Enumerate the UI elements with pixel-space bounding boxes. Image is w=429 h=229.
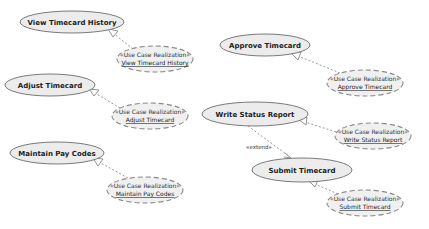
extend-link: «extend»: [246, 126, 291, 158]
realization-link[interactable]: Adjust Timecard: [126, 116, 175, 124]
use-case-label: View Timecard History: [28, 19, 117, 27]
use-case-label: Approve Timecard: [229, 42, 301, 50]
realization-stereotype: «Use Case Realization»: [120, 51, 190, 58]
realization-stereotype: «Use Case Realization»: [115, 108, 185, 115]
realization-view-timecard-history[interactable]: «Use Case Realization» View Timecard His…: [117, 46, 193, 72]
realization-stereotype: «Use Case Realization»: [110, 182, 180, 189]
use-case-label: Write Status Report: [216, 111, 295, 119]
realize-link-view-timecard-history: [113, 33, 133, 49]
realization-link[interactable]: Write Status Report: [344, 136, 403, 144]
use-case-label: Maintain Pay Codes: [18, 150, 95, 158]
realization-link[interactable]: View Timecard History: [121, 59, 189, 67]
realization-adjust-timecard[interactable]: «Use Case Realization» Adjust Timecard: [112, 103, 188, 129]
realization-link[interactable]: Approve Timecard: [338, 83, 393, 91]
realize-link-write-status-report: [305, 122, 336, 132]
extend-label: «extend»: [246, 144, 272, 150]
realization-stereotype: «Use Case Realization»: [338, 128, 408, 135]
realize-link-maintain-pay-codes: [99, 162, 128, 178]
use-case-submit-timecard[interactable]: Submit Timecard: [252, 158, 352, 182]
use-case-label: Adjust Timecard: [18, 82, 82, 90]
realize-link-adjust-timecard: [95, 93, 120, 108]
realization-approve-timecard[interactable]: «Use Case Realization» Approve Timecard: [327, 70, 403, 96]
realization-link[interactable]: Maintain Pay Codes: [116, 190, 175, 198]
realization-link[interactable]: Submit Timecard: [339, 203, 390, 210]
use-case-label: Submit Timecard: [268, 167, 335, 175]
realization-write-status-report[interactable]: «Use Case Realization» Write Status Repo…: [335, 123, 411, 149]
use-case-write-status-report[interactable]: Write Status Report: [202, 102, 308, 126]
realize-link-submit-timecard: [315, 184, 338, 194]
use-case-maintain-pay-codes[interactable]: Maintain Pay Codes: [10, 142, 104, 164]
use-case-view-timecard-history[interactable]: View Timecard History: [20, 11, 124, 33]
realization-submit-timecard[interactable]: «Use Case Realization» Submit Timecard: [327, 190, 403, 216]
use-case-diagram: «extend» View Timecard History Adjust Ti…: [0, 0, 429, 229]
realization-stereotype: «Use Case Realization»: [330, 195, 400, 202]
realize-link-approve-timecard: [298, 56, 340, 73]
open-arrowhead-icon: [284, 153, 291, 158]
use-case-adjust-timecard[interactable]: Adjust Timecard: [5, 74, 95, 96]
realization-stereotype: «Use Case Realization»: [330, 75, 400, 82]
realization-maintain-pay-codes[interactable]: «Use Case Realization» Maintain Pay Code…: [107, 177, 183, 203]
use-case-approve-timecard[interactable]: Approve Timecard: [220, 34, 310, 56]
